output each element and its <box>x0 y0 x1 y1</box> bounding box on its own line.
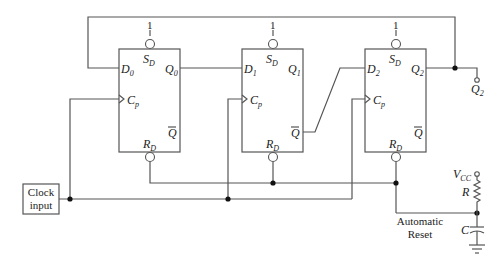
ring-counter-circuit: 1 1 1 SD D0 Q0 Cp Q RD SD D1 Q1 Cp Q RD … <box>0 0 503 265</box>
set-bubble-icon <box>392 40 401 49</box>
reset-caption: Reset <box>408 228 432 240</box>
vcc-label: VCC <box>453 167 472 183</box>
clock-label: input <box>30 199 53 211</box>
capacitor-label: C <box>461 223 470 237</box>
set-value-label: 1 <box>393 19 399 31</box>
q2-output-wire <box>426 68 477 78</box>
resistor-icon <box>474 176 480 213</box>
reset-bubble-icon <box>269 153 278 162</box>
reset-caption: Automatic <box>397 215 444 227</box>
clock-label: Clock <box>28 186 55 198</box>
ground-icon <box>469 245 485 253</box>
set-bubble-icon <box>146 40 155 49</box>
svg-text:Q: Q <box>291 126 300 140</box>
vcc-terminal-icon <box>475 172 480 177</box>
svg-text:Q: Q <box>168 126 177 140</box>
resistor-label: R <box>461 185 470 199</box>
svg-text:Q: Q <box>414 126 423 140</box>
set-value-label: 1 <box>270 19 276 31</box>
output-label: Q2 <box>471 82 484 98</box>
reset-bubble-icon <box>392 153 401 162</box>
set-value-label: 1 <box>147 19 153 31</box>
reset-bubble-icon <box>146 153 155 162</box>
qbar1-to-d2-wire <box>303 68 365 132</box>
set-bubble-icon <box>269 40 278 49</box>
